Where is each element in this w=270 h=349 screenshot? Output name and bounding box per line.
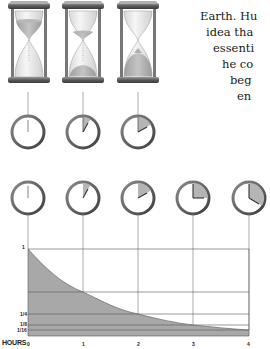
x-tick-4: 4 [247, 341, 250, 347]
clock-row-1 [12, 116, 154, 148]
clock-icon [67, 116, 99, 148]
x-tick-0: 0 [27, 341, 30, 347]
x-axis-title: HOURS [2, 339, 26, 346]
hourglass-1 [8, 1, 50, 83]
clock-icon [177, 182, 209, 214]
y-tick-1-16: 1/16 [17, 327, 27, 333]
area-fill [28, 249, 249, 336]
clock-icon [12, 116, 44, 148]
y-tick-1-4: 1/4 [20, 311, 27, 317]
clock-row-2 [12, 182, 265, 214]
x-tick-2: 2 [137, 341, 140, 347]
hourglass-2 [62, 1, 104, 83]
hourglass-3 [117, 1, 159, 83]
x-tick-3: 3 [192, 341, 195, 347]
clock-icon [12, 182, 44, 214]
clock-icon [233, 182, 265, 214]
x-tick-1: 1 [82, 341, 85, 347]
illustration [0, 0, 270, 349]
clock-icon [122, 182, 154, 214]
clock-icon [122, 116, 154, 148]
clock-icon [67, 182, 99, 214]
decay-chart [28, 249, 249, 336]
y-tick-1: 1 [22, 244, 25, 250]
